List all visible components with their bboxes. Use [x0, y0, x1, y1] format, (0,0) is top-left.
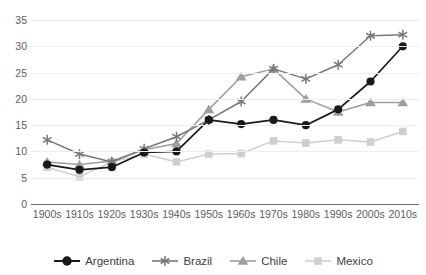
legend-label: Mexico — [336, 255, 372, 267]
data-point-circle — [140, 148, 148, 156]
data-point-circle — [205, 116, 213, 124]
data-point-square — [173, 158, 181, 166]
data-point-square — [367, 138, 375, 146]
x-axis-line — [31, 204, 419, 205]
data-point-circle — [366, 77, 374, 85]
data-point-circle — [75, 166, 83, 174]
data-point-asterisk — [43, 135, 52, 145]
legend-item-brazil[interactable]: Brazil — [151, 255, 212, 267]
data-point-square — [302, 139, 310, 147]
y-axis-tick-label: 30 — [3, 41, 27, 51]
plot-area — [31, 20, 419, 204]
data-point-asterisk — [302, 74, 311, 84]
y-axis-tick-label: 20 — [3, 94, 27, 104]
legend-marker-square-icon — [304, 255, 332, 267]
legend-item-argentina[interactable]: Argentina — [53, 255, 134, 267]
legend-marker-circle-icon — [53, 255, 81, 267]
series-line — [47, 131, 403, 176]
data-point-circle — [43, 160, 51, 168]
x-axis-tick-label: 2000s — [354, 207, 386, 223]
legend-label: Chile — [261, 255, 287, 267]
data-point-square — [76, 173, 84, 181]
x-axis-tick-label: 1920s — [96, 207, 128, 223]
chart-page: 35302520151050 1900s1910s1920s1930s1940s… — [0, 0, 426, 275]
legend-marker-asterisk-icon — [151, 255, 179, 267]
data-point-circle — [237, 120, 245, 128]
legend-marker-triangle-icon — [229, 255, 257, 267]
legend-item-mexico[interactable]: Mexico — [304, 255, 372, 267]
x-axis-labels: 1900s1910s1920s1930s1940s1950s1960s1970s… — [31, 207, 419, 223]
gridline — [31, 178, 419, 179]
gridline — [31, 99, 419, 100]
data-point-square — [399, 128, 407, 136]
x-axis-tick-label: 1960s — [225, 207, 257, 223]
chart-svg — [31, 20, 419, 204]
data-point-circle — [62, 256, 71, 265]
legend-label: Argentina — [85, 255, 134, 267]
x-axis-tick-label: 1950s — [193, 207, 225, 223]
x-axis-tick-label: 1930s — [128, 207, 160, 223]
y-axis-tick-label: 10 — [3, 146, 27, 156]
x-axis-tick-label: 1940s — [160, 207, 192, 223]
data-point-circle — [334, 105, 342, 113]
gridline — [31, 46, 419, 47]
gridline — [31, 73, 419, 74]
data-point-circle — [269, 116, 277, 124]
x-axis-tick-label: 1910s — [63, 207, 95, 223]
legend-item-chile[interactable]: Chile — [229, 255, 287, 267]
y-axis-tick-label: 15 — [3, 120, 27, 130]
gridline — [31, 20, 419, 21]
data-point-circle — [108, 163, 116, 171]
series-line — [47, 69, 403, 165]
gridline — [31, 151, 419, 152]
y-axis-tick-label: 25 — [3, 68, 27, 78]
y-axis-tick-label: 0 — [3, 199, 27, 209]
x-axis-tick-label: 1990s — [322, 207, 354, 223]
legend-label: Brazil — [183, 255, 212, 267]
x-axis-tick-label: 2010s — [387, 207, 419, 223]
series-chile — [42, 64, 408, 168]
series-mexico — [43, 128, 406, 181]
y-axis-labels: 35302520151050 — [0, 0, 27, 275]
x-axis-tick-label: 1900s — [31, 207, 63, 223]
x-axis-tick-label: 1970s — [257, 207, 289, 223]
data-point-square — [315, 257, 323, 265]
x-axis-tick-label: 1980s — [290, 207, 322, 223]
y-axis-tick-label: 5 — [3, 173, 27, 183]
gridline — [31, 125, 419, 126]
data-point-square — [334, 136, 342, 144]
chart-legend: ArgentinaBrazilChileMexico — [0, 250, 426, 272]
data-point-square — [270, 137, 278, 145]
y-axis-tick-label: 35 — [3, 15, 27, 25]
